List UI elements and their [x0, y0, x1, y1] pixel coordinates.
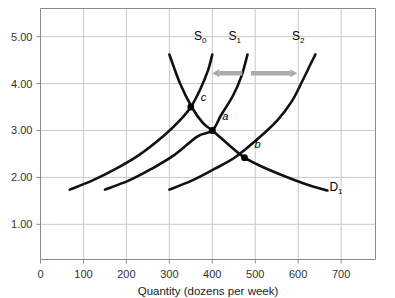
xtick-label-400: 400	[203, 268, 221, 280]
xtick-label-600: 600	[289, 268, 307, 280]
xtick-label-700: 700	[332, 268, 350, 280]
ytick-label-4: 4.00	[11, 78, 32, 90]
point-c-label: c	[201, 91, 207, 103]
point-a-marker	[209, 127, 216, 134]
point-a-label: a	[222, 110, 228, 122]
ytick-label-3: 3.00	[11, 124, 32, 136]
xtick-label-500: 500	[246, 268, 264, 280]
ytick-label-1: 1.00	[11, 218, 32, 230]
supply-demand-chart: 01002003004005006007001.002.003.004.005.…	[0, 0, 395, 298]
xtick-label-300: 300	[160, 268, 178, 280]
xtick-label-200: 200	[117, 268, 135, 280]
point-b-marker	[241, 154, 248, 161]
ytick-label-2: 2.00	[11, 171, 32, 183]
xtick-label-100: 100	[74, 268, 92, 280]
chart-canvas: 01002003004005006007001.002.003.004.005.…	[0, 0, 395, 298]
x-axis-title: Quantity (dozens per week)	[138, 285, 279, 297]
point-b-label: b	[255, 138, 261, 150]
point-c-marker	[187, 104, 194, 111]
ytick-label-5: 5.00	[11, 31, 32, 43]
xtick-label-0: 0	[37, 268, 43, 280]
